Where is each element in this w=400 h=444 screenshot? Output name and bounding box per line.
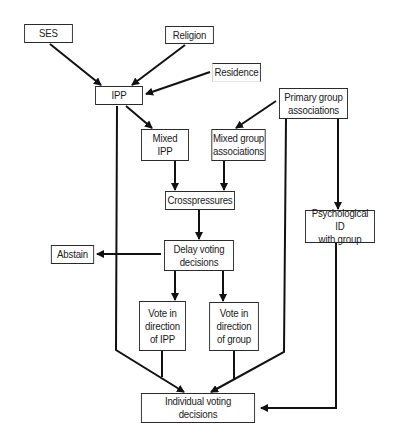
- node-crosspressures: Crosspressures: [165, 191, 235, 210]
- node-individual-voting-decisions: Individual voting decisions: [141, 393, 255, 423]
- arrow-primary-to-mixed-group: [236, 101, 276, 128]
- arrow-psych-id-to-individual: [261, 243, 336, 408]
- node-mixed-ipp: Mixed IPP: [141, 129, 189, 161]
- node-mixed-group-associations: Mixed group associations: [211, 129, 265, 161]
- arrow-ipp-to-mixed-ipp: [126, 106, 152, 128]
- node-residence: Residence: [212, 63, 261, 82]
- node-ipp: IPP: [95, 86, 143, 105]
- arrow-residence-to-ipp: [146, 72, 210, 94]
- node-vote-in-direction-of-group: Vote in direction of group: [209, 302, 259, 351]
- node-religion: Religion: [165, 26, 214, 44]
- node-ses: SES: [24, 24, 73, 43]
- node-abstain: Abstain: [51, 245, 94, 264]
- node-psychological-id-with-group: Psychological ID with group: [305, 210, 375, 243]
- node-vote-in-direction-of-ipp: Vote in direction of IPP: [139, 301, 186, 351]
- arrow-ses-to-ipp: [50, 44, 101, 85]
- node-primary-group-associations: Primary group associations: [279, 88, 348, 119]
- voting-behavior-flow-diagram: SES Religion Residence IPP Primary group…: [0, 0, 400, 444]
- node-delay-voting-decisions: Delay voting decisions: [164, 240, 234, 271]
- arrow-religion-to-ipp: [132, 45, 185, 85]
